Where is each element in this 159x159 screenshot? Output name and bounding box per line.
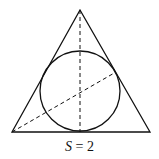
label-equals: = [76, 139, 84, 154]
label-variable: S [65, 139, 72, 154]
inscribed-circle [40, 51, 120, 131]
equilateral-triangle [12, 10, 150, 132]
triangle-incircle-diagram [0, 0, 159, 159]
bisector-dashed-line [12, 72, 116, 132]
label-value: 2 [87, 139, 94, 154]
area-label: S = 2 [0, 139, 159, 155]
